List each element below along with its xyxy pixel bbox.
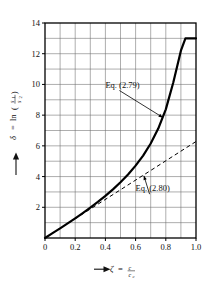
x-tick-label: 0 [43, 242, 47, 252]
x-axis-label-zeta: ζ [110, 264, 114, 274]
y-axis-label: δ = ln ( s 1 s 2 ) [8, 91, 23, 140]
x-tick-label: 1.0 [191, 242, 202, 252]
annotation-label: Eq. (2.79) [105, 80, 139, 90]
chart-figure: 2468101214 00.20.40.60.81.0 Eq. (2.79)Eq… [0, 0, 218, 297]
x-axis-label-denominator-sub: c [132, 274, 134, 279]
x-tick-label: 0.6 [130, 242, 141, 252]
x-axis-label-equals: = [118, 264, 123, 274]
x-tick-label: 0.8 [160, 242, 171, 252]
y-axis-label-paren-open: ( [9, 107, 19, 110]
y-tick-label: 14 [32, 18, 41, 28]
y-axis-label-numerator: s [9, 100, 15, 103]
x-axis-label: ζ = c c c [110, 264, 135, 279]
y-axis-label-delta: δ [8, 135, 18, 140]
annotation-label: Eq. (2.80) [136, 183, 170, 193]
arrow-up-icon [13, 153, 19, 176]
y-axis-label-equals: = [8, 125, 18, 130]
x-tick-label: 0.2 [70, 242, 81, 252]
x-axis-label-denominator: c [129, 272, 132, 278]
y-tick-label: 6 [36, 141, 40, 151]
y-tick-label: 10 [32, 79, 41, 89]
y-tick-label: 4 [36, 172, 41, 182]
y-axis-label-denominator: s [16, 100, 22, 103]
y-axis-ticks: 2468101214 [32, 18, 46, 212]
y-axis-label-numerator-sub: 1 [11, 96, 16, 99]
arrow-right-icon [94, 266, 111, 272]
x-axis-ticks: 00.20.40.60.81.0 [43, 238, 201, 252]
y-tick-label: 12 [32, 49, 41, 59]
y-tick-label: 2 [36, 202, 40, 212]
y-axis-label-denominator-sub: 2 [18, 96, 23, 99]
y-axis-label-paren-close: ) [9, 91, 19, 94]
y-axis-label-ln: ln [8, 114, 18, 121]
x-axis-label-numerator: c [129, 265, 132, 271]
damping-ratio-log-decrement-chart: 2468101214 00.20.40.60.81.0 Eq. (2.79)Eq… [0, 0, 218, 297]
y-tick-label: 8 [36, 110, 40, 120]
x-tick-label: 0.4 [100, 242, 111, 252]
